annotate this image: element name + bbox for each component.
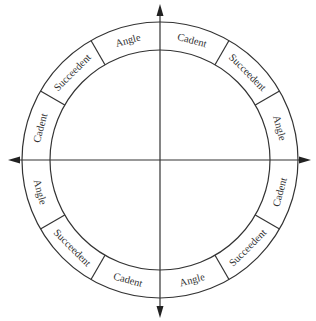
- segment-label-angle: Angle: [178, 271, 206, 288]
- segment-label-succeedent: Succeedent: [227, 227, 269, 269]
- segment-divider: [40, 91, 64, 105]
- segment-divider: [215, 255, 229, 279]
- segment-divider: [91, 40, 105, 64]
- segment-label-cadent: Cadent: [176, 31, 208, 49]
- arrow-down-icon: [157, 306, 164, 318]
- segment-label-succeedent: Succeedent: [52, 227, 94, 269]
- house-wheel-diagram: AngleCadentSucceedentAngleCadentSucceede…: [0, 0, 316, 321]
- segment-label-succeedent: Succeedent: [52, 51, 94, 93]
- segment-label-angle: Angle: [271, 114, 288, 142]
- segment-label-succeedent: Succeedent: [227, 52, 269, 94]
- segment-label-cadent: Cadent: [31, 112, 49, 144]
- segment-divider: [40, 215, 64, 229]
- segment-divider: [255, 91, 279, 105]
- arrow-right-icon: [299, 157, 311, 164]
- segment-label-angle: Angle: [114, 32, 142, 49]
- axes: [8, 4, 311, 318]
- segment-label-cadent: Cadent: [112, 271, 144, 289]
- segment-divider: [215, 40, 229, 64]
- segment-label-cadent: Cadent: [271, 176, 289, 208]
- segment-divider: [255, 215, 279, 229]
- arrow-left-icon: [8, 157, 20, 164]
- arrow-up-icon: [157, 4, 164, 16]
- segment-divider: [91, 255, 105, 279]
- segment-label-angle: Angle: [32, 178, 49, 206]
